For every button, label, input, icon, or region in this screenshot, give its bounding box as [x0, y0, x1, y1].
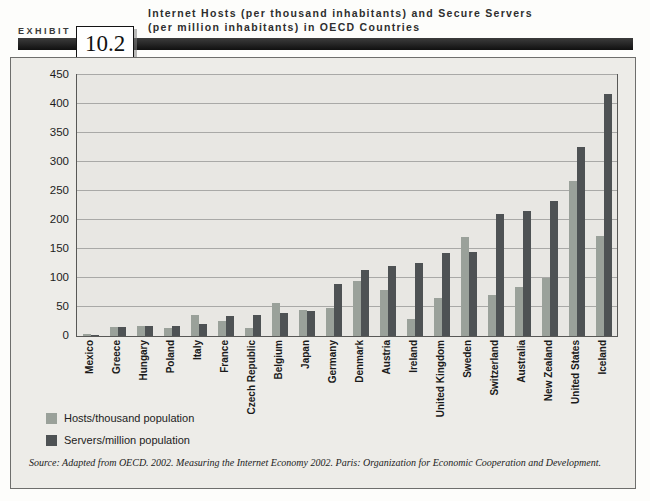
gridline-300: [77, 161, 617, 162]
y-tick-250: 250: [25, 184, 69, 196]
bar-servers-denmark: [361, 270, 369, 336]
y-tick-450: 450: [25, 68, 69, 80]
x-label-sweden: Sweden: [461, 340, 475, 432]
bar-hosts-italy: [191, 315, 199, 336]
chart-panel: 050100150200250300350400450 MexicoGreece…: [10, 57, 636, 489]
x-label-germany: Germany: [326, 340, 340, 432]
x-label-iceland: Iceland: [596, 340, 610, 432]
x-label-austria: Austria: [380, 340, 394, 432]
bar-hosts-ireland: [407, 319, 415, 336]
bar-servers-switzerland: [496, 214, 504, 336]
bar-servers-hungary: [145, 326, 153, 336]
legend-swatch-0: [46, 413, 57, 424]
y-tick-50: 50: [25, 300, 69, 312]
bar-servers-germany: [334, 284, 342, 336]
bar-hosts-japan: [299, 310, 307, 336]
legend-item-1: Servers/million population: [46, 434, 194, 446]
bar-hosts-denmark: [353, 281, 361, 336]
x-label-united-states: United States: [569, 340, 583, 432]
bar-hosts-new-zealand: [542, 278, 550, 336]
gridline-250: [77, 190, 617, 191]
bar-servers-sweden: [469, 252, 477, 336]
bar-hosts-united-kingdom: [434, 298, 442, 336]
bar-hosts-czech-republic: [245, 328, 253, 336]
y-tick-200: 200: [25, 213, 69, 225]
bar-servers-iceland: [604, 94, 612, 336]
y-tick-350: 350: [25, 126, 69, 138]
y-tick-400: 400: [25, 97, 69, 109]
legend: Hosts/thousand populationServers/million…: [46, 412, 194, 456]
bar-hosts-germany: [326, 308, 334, 336]
legend-item-0: Hosts/thousand population: [46, 412, 194, 424]
page: EXHIBIT 10.2 Internet Hosts (per thousan…: [0, 0, 650, 501]
source-note: Source: Adapted from OECD. 2002. Measuri…: [29, 457, 619, 468]
x-label-switzerland: Switzerland: [488, 340, 502, 432]
bar-hosts-france: [218, 321, 226, 336]
bar-hosts-greece: [110, 327, 118, 336]
y-tick-300: 300: [25, 155, 69, 167]
gridline-200: [77, 219, 617, 220]
bar-servers-mexico: [91, 335, 99, 336]
bar-servers-austria: [388, 266, 396, 336]
chart-title: Internet Hosts (per thousand inhabitants…: [148, 7, 533, 34]
bar-servers-poland: [172, 326, 180, 336]
bar-servers-australia: [523, 211, 531, 336]
bar-servers-japan: [307, 311, 315, 336]
x-label-australia: Australia: [515, 340, 529, 432]
x-label-denmark: Denmark: [353, 340, 367, 432]
chart-title-line2: (per million inhabitants) in OECD Countr…: [148, 21, 533, 35]
bar-servers-france: [226, 316, 234, 336]
gridline-50: [77, 306, 617, 307]
bar-servers-united-states: [577, 147, 585, 336]
bar-hosts-belgium: [272, 303, 280, 336]
legend-label-0: Hosts/thousand population: [64, 412, 194, 424]
gridline-150: [77, 248, 617, 249]
chart-title-line1: Internet Hosts (per thousand inhabitants…: [148, 7, 533, 21]
bar-hosts-sweden: [461, 237, 469, 336]
bar-hosts-switzerland: [488, 295, 496, 336]
bar-hosts-hungary: [137, 326, 145, 336]
gridline-100: [77, 277, 617, 278]
bar-servers-italy: [199, 324, 207, 336]
y-tick-150: 150: [25, 242, 69, 254]
bar-servers-new-zealand: [550, 201, 558, 336]
bar-hosts-poland: [164, 328, 172, 336]
legend-swatch-1: [46, 435, 57, 446]
x-label-france: France: [218, 340, 232, 432]
bar-hosts-iceland: [596, 236, 604, 336]
exhibit-number-box: 10.2: [76, 26, 134, 61]
x-label-japan: Japan: [299, 340, 313, 432]
y-tick-100: 100: [25, 271, 69, 283]
bar-servers-ireland: [415, 263, 423, 336]
bar-hosts-mexico: [83, 334, 91, 336]
exhibit-label: EXHIBIT: [18, 26, 71, 36]
bar-hosts-australia: [515, 287, 523, 336]
bar-hosts-united-states: [569, 181, 577, 336]
legend-label-1: Servers/million population: [64, 434, 190, 446]
gridline-400: [77, 103, 617, 104]
bar-servers-czech-republic: [253, 315, 261, 336]
plot-area: [76, 74, 618, 337]
bar-hosts-austria: [380, 290, 388, 336]
y-tick-0: 0: [25, 329, 69, 341]
gridline-450: [77, 74, 617, 75]
x-label-belgium: Belgium: [272, 340, 286, 432]
x-label-new-zealand: New Zealand: [542, 340, 556, 432]
bar-servers-greece: [118, 327, 126, 336]
x-label-united-kingdom: United Kingdom: [434, 340, 448, 432]
exhibit-number: 10.2: [85, 31, 125, 57]
gridline-350: [77, 132, 617, 133]
bar-servers-united-kingdom: [442, 253, 450, 336]
x-label-ireland: Ireland: [407, 340, 421, 432]
x-label-czech-republic: Czech Republic: [245, 340, 259, 432]
bar-servers-belgium: [280, 313, 288, 336]
